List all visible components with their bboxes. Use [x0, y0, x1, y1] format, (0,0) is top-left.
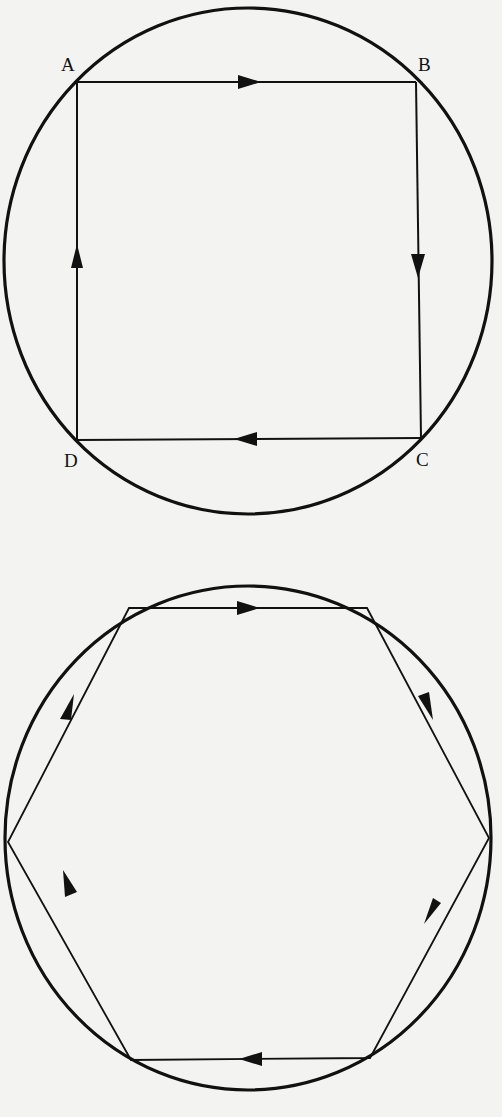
- hexagon-in-circle-figure: [0, 520, 502, 1117]
- arrow-right-icon: [237, 601, 260, 615]
- arrow-up-icon: [71, 244, 83, 268]
- arrow-left-icon: [239, 1052, 262, 1066]
- arrow-down-left-icon: [424, 898, 441, 924]
- vertex-label-d: D: [64, 450, 78, 471]
- circumscribed-circle: [5, 586, 491, 1090]
- vertex-label-b: B: [418, 54, 431, 75]
- vertex-label-a: A: [61, 54, 75, 75]
- arrow-right-icon: [238, 75, 261, 89]
- arrow-up-right-icon: [60, 694, 74, 720]
- hexagon-diagram: [0, 520, 502, 1117]
- square-in-circle-figure: A B C D: [0, 0, 502, 520]
- arrow-down-icon: [411, 254, 425, 278]
- arrow-down-right-icon: [418, 692, 433, 720]
- arrow-up-left-icon: [63, 870, 77, 897]
- hexagon-path: [8, 608, 489, 1060]
- arrow-left-icon: [234, 432, 257, 446]
- square-diagram: A B C D: [0, 0, 502, 520]
- vertex-label-c: C: [416, 449, 429, 470]
